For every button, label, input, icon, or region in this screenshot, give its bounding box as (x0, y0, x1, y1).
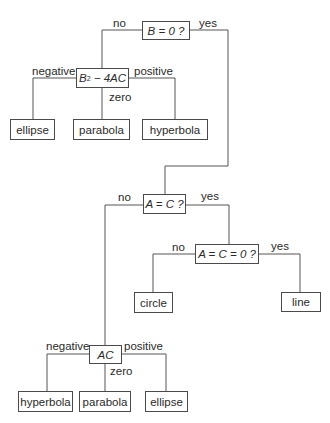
edge-label-aeqc0-no: no (172, 241, 185, 253)
node-ac: AC (89, 345, 122, 364)
edge-label-root-yes: yes (199, 17, 217, 29)
leaf-ellipse-top: ellipse (10, 119, 55, 140)
leaf-line: line (281, 292, 321, 312)
edge-label-ac-positive: positive (124, 340, 163, 352)
edge-label-ac-negative: negative (46, 340, 89, 352)
leaf-ellipse-bottom: ellipse (145, 391, 188, 412)
edge-label-disc-zero: zero (109, 91, 131, 103)
discriminant-base: B (79, 72, 87, 84)
discriminant-rest: − 4AC (91, 72, 126, 84)
leaf-hyperbola-bottom: hyperbola (18, 391, 73, 412)
edge-label-disc-negative: negative (32, 65, 75, 77)
leaf-parabola-top: parabola (73, 119, 130, 140)
node-discriminant: B2 − 4AC (76, 68, 129, 88)
edge-label-aeqc-yes: yes (201, 190, 219, 202)
node-a-equals-c-equals-zero: A = C = 0 ? (195, 244, 259, 264)
leaf-hyperbola-top: hyperbola (142, 119, 208, 140)
edge-label-root-no: no (113, 17, 126, 29)
leaf-circle: circle (134, 292, 173, 313)
edge-label-aeqc-no: no (118, 191, 131, 203)
edge-label-aeqc0-yes: yes (271, 240, 289, 252)
node-b-equals-zero: B = 0 ? (142, 21, 190, 40)
node-a-equals-c: A = C ? (143, 194, 186, 214)
edge-label-disc-positive: positive (134, 65, 173, 77)
leaf-parabola-bottom: parabola (79, 391, 131, 412)
edge-label-ac-zero: zero (110, 365, 132, 377)
